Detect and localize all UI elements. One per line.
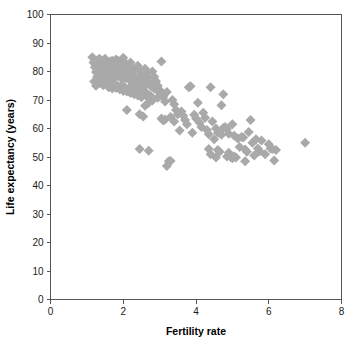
y-tick-label: 10 [32, 266, 44, 277]
x-tick-label: 0 [48, 306, 54, 317]
scatter-chart: 0102030405060708090100 02468 Fertility r… [0, 0, 359, 345]
x-axis-ticks: 02468 [48, 300, 345, 317]
x-tick-label: 4 [193, 306, 199, 317]
data-point [193, 98, 203, 108]
data-point [269, 155, 279, 165]
data-point [156, 57, 166, 67]
y-tick-label: 20 [32, 237, 44, 248]
y-axis-title: Life expectancy (years) [4, 99, 16, 215]
data-point [144, 146, 154, 156]
y-axis-ticks: 0102030405060708090100 [27, 9, 51, 305]
y-tick-label: 40 [32, 180, 44, 191]
data-point [246, 115, 256, 125]
y-tick-label: 50 [32, 152, 44, 163]
y-tick-label: 90 [32, 38, 44, 49]
y-tick-label: 30 [32, 209, 44, 220]
data-point [122, 105, 132, 115]
data-point [216, 100, 226, 110]
x-tick-label: 8 [339, 306, 345, 317]
data-point [300, 138, 310, 148]
x-axis-title: Fertility rate [166, 325, 226, 337]
data-point [218, 89, 228, 99]
y-tick-label: 70 [32, 95, 44, 106]
data-point [240, 156, 250, 166]
data-markers [87, 52, 310, 171]
x-tick-label: 6 [266, 306, 272, 317]
y-tick-label: 60 [32, 123, 44, 134]
data-point [135, 144, 145, 154]
chart-canvas: 0102030405060708090100 02468 Fertility r… [0, 0, 359, 345]
data-point [175, 125, 185, 135]
data-point [206, 82, 216, 92]
y-tick-label: 0 [38, 294, 44, 305]
y-tick-label: 80 [32, 66, 44, 77]
y-tick-label: 100 [27, 9, 44, 20]
x-tick-label: 2 [120, 306, 126, 317]
data-point [187, 128, 197, 138]
